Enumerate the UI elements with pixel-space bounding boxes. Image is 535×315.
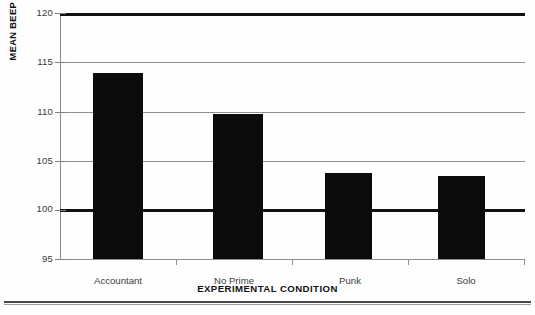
x-tick-1 <box>176 259 177 265</box>
plot-area: Accountant No Prime Punk Solo <box>60 13 525 260</box>
bar-no-prime <box>213 114 263 259</box>
y-tick-label-120: 120 <box>37 7 53 18</box>
bar-accountant <box>93 73 143 259</box>
y-axis-title-label: MEAN BEEP ESTIMATES <box>2 0 24 82</box>
y-tick-95 <box>55 259 66 260</box>
x-tick-4 <box>524 259 525 265</box>
y-tick-label-95: 95 <box>42 253 53 264</box>
y-tick-105 <box>55 161 66 162</box>
bar-chart-figure: MEAN BEEP ESTIMATES 120 115 110 105 100 … <box>0 0 535 315</box>
x-tick-3 <box>408 259 409 265</box>
y-tick-label-100: 100 <box>37 203 53 214</box>
y-tick-label-105: 105 <box>37 155 53 166</box>
bar-punk <box>325 173 372 259</box>
gridline-120 <box>60 13 525 16</box>
x-tick-2 <box>292 259 293 265</box>
footer-rule <box>4 301 531 303</box>
gridline-115 <box>60 62 525 63</box>
x-axis-title: EXPERIMENTAL CONDITION <box>0 283 535 294</box>
y-tick-120 <box>55 13 66 14</box>
y-axis-title: MEAN BEEP ESTIMATES <box>2 0 24 82</box>
y-tick-110 <box>55 112 66 113</box>
footer-rule-shadow <box>4 304 531 305</box>
y-axis-line <box>60 13 61 260</box>
y-tick-115 <box>55 62 66 63</box>
y-tick-label-110: 110 <box>37 106 53 117</box>
y-tick-label-115: 115 <box>37 56 53 67</box>
bar-solo <box>438 176 485 259</box>
y-tick-100 <box>55 210 66 211</box>
